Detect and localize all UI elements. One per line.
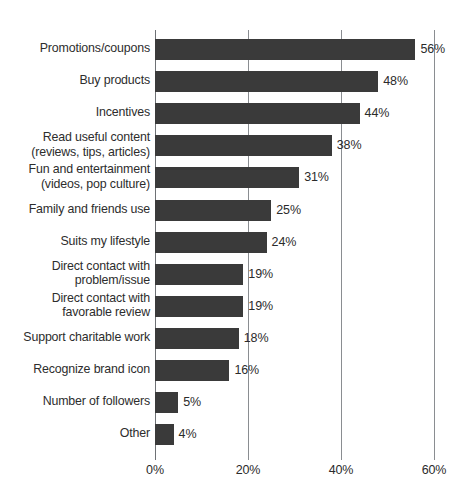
bar — [155, 103, 360, 124]
bar-row: Number of followers5% — [0, 392, 463, 413]
bar — [155, 200, 271, 221]
bar-value-label: 5% — [183, 395, 201, 409]
bar — [155, 328, 239, 349]
x-tick-label-60pct: 60% — [422, 463, 447, 477]
bar-row: Suits my lifestyle24% — [0, 232, 463, 253]
bar-row: Incentives44% — [0, 103, 463, 124]
x-tick-label-40pct: 40% — [329, 463, 354, 477]
category-label: Read useful content (reviews, tips, arti… — [0, 130, 150, 159]
bar-row: Other4% — [0, 424, 463, 445]
bar — [155, 392, 178, 413]
bar — [155, 71, 378, 92]
bar-value-label: 19% — [248, 299, 273, 313]
bar-row: Support charitable work18% — [0, 328, 463, 349]
category-label: Buy products — [0, 73, 150, 88]
x-tick-label-20pct: 20% — [236, 463, 261, 477]
bar — [155, 360, 229, 381]
bar-row: Promotions/coupons56% — [0, 39, 463, 60]
x-tick-label-0pct: 0% — [146, 463, 164, 477]
bar-row: Direct contact with problem/issue19% — [0, 264, 463, 285]
bar-row: Recognize brand icon16% — [0, 360, 463, 381]
bar-value-label: 44% — [365, 106, 390, 120]
bar — [155, 264, 243, 285]
bar-row: Read useful content (reviews, tips, arti… — [0, 135, 463, 156]
category-label: Fun and entertainment (videos, pop cultu… — [0, 162, 150, 191]
category-label: Support charitable work — [0, 330, 150, 345]
bar — [155, 167, 299, 188]
bar-value-label: 56% — [420, 42, 445, 56]
bar-value-label: 18% — [244, 331, 269, 345]
category-label: Number of followers — [0, 394, 150, 409]
category-label: Recognize brand icon — [0, 362, 150, 377]
category-label: Direct contact with problem/issue — [0, 259, 150, 288]
bar-value-label: 38% — [337, 138, 362, 152]
bar — [155, 135, 332, 156]
category-label: Promotions/coupons — [0, 41, 150, 56]
bar-value-label: 25% — [276, 203, 301, 217]
category-label: Family and friends use — [0, 202, 150, 217]
category-label: Other — [0, 426, 150, 441]
horizontal-bar-chart: 0%20%40%60% Promotions/coupons56%Buy pro… — [0, 0, 463, 496]
bar-row: Buy products48% — [0, 71, 463, 92]
bar-value-label: 16% — [234, 363, 259, 377]
bar-value-label: 31% — [304, 170, 329, 184]
bar-value-label: 19% — [248, 267, 273, 281]
bar-row: Family and friends use25% — [0, 200, 463, 221]
category-label: Incentives — [0, 105, 150, 120]
bar — [155, 296, 243, 317]
bar — [155, 232, 267, 253]
bar-value-label: 24% — [272, 235, 297, 249]
bar — [155, 39, 415, 60]
bar-value-label: 48% — [383, 74, 408, 88]
category-label: Suits my lifestyle — [0, 234, 150, 249]
bar-row: Fun and entertainment (videos, pop cultu… — [0, 167, 463, 188]
bar — [155, 424, 174, 445]
bar-value-label: 4% — [179, 427, 197, 441]
category-label: Direct contact with favorable review — [0, 291, 150, 320]
bar-row: Direct contact with favorable review19% — [0, 296, 463, 317]
